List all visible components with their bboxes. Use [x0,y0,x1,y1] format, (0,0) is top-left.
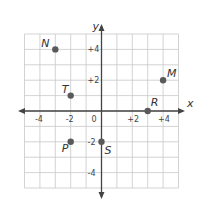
x-axis-label: x [186,97,194,110]
coordinate-plane: xy-4-20+2+4+4+2-2-4NTPSRM [0,0,200,211]
point-label-r: R [151,96,159,109]
x-tick-label: +2 [127,115,139,124]
arrow-left-icon [18,108,25,114]
x-tick-label: -4 [35,115,43,124]
arrow-up-icon [99,24,105,31]
y-tick-label: +4 [88,45,100,54]
x-tick-label: +4 [158,115,170,124]
point-p [68,139,74,145]
point-label-n: N [41,37,49,50]
y-tick-label: -4 [88,169,96,178]
point-label-m: M [167,67,177,80]
y-tick-label: +2 [88,76,100,85]
y-tick-label: -2 [88,138,96,147]
point-label-p: P [62,142,69,155]
point-n [52,46,58,52]
point-label-s: S [105,144,112,157]
point-t [68,92,74,98]
x-tick-label: 0 [92,115,97,124]
arrow-right-icon [178,108,185,114]
y-axis-label: y [92,20,100,33]
x-tick-label: -2 [66,115,74,124]
point-m [160,77,166,83]
arrow-down-icon [99,192,105,199]
